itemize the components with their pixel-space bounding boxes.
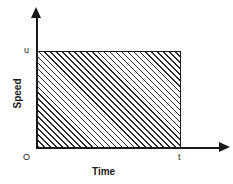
y-tick-label-u: u (24, 45, 29, 55)
x-axis-title: Time (92, 166, 115, 177)
x-tick-label-t: t (178, 152, 181, 162)
speed-time-graph: Speed Time u O t (0, 0, 233, 184)
hatched-area-region (37, 51, 181, 148)
y-axis-arrow-icon (31, 7, 41, 18)
x-axis-arrow-icon (219, 142, 230, 152)
origin-label: O (23, 152, 30, 162)
y-axis-title: Speed (12, 64, 23, 124)
